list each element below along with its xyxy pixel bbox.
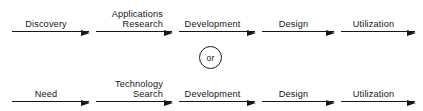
flow-step-label: Applications Research (112, 9, 163, 30)
flow-step-utilization: Utilization (341, 70, 415, 110)
arrowhead-icon (407, 100, 416, 106)
flow-step-label: Need (12, 89, 80, 100)
flow-step-label: Utilization (341, 19, 406, 30)
process-flow-diagram: Discovery Applications Research Developm… (0, 0, 423, 111)
flow-step-need: Need (12, 70, 89, 110)
or-connector: or (199, 46, 222, 69)
flow-step-development: Development (179, 70, 255, 110)
flow-step-label: Development (179, 19, 246, 30)
arrow-shaft (262, 101, 334, 102)
arrowhead-icon (81, 30, 90, 36)
arrow-shaft (12, 101, 89, 102)
arrowhead-icon (326, 100, 335, 106)
arrow-shaft (341, 31, 415, 32)
arrowhead-icon (326, 30, 335, 36)
flow-step-design: Design (262, 0, 334, 40)
arrowhead-icon (407, 30, 416, 36)
flow-step-utilization: Utilization (341, 0, 415, 40)
or-connector-label: or (200, 47, 221, 68)
arrowhead-icon (164, 100, 173, 106)
flow-step-label: Utilization (341, 89, 406, 100)
arrow-shaft (262, 31, 334, 32)
flow-step-label: Design (262, 19, 325, 30)
arrowhead-icon (164, 30, 173, 36)
flow-need-pull: Need Technology Search Development Desig… (0, 70, 423, 110)
arrow-shaft (179, 31, 255, 32)
flow-step-label: Development (179, 89, 246, 100)
arrow-shaft (96, 31, 172, 32)
arrow-shaft (179, 101, 255, 102)
arrow-shaft (341, 101, 415, 102)
flow-step-applications-research: Applications Research (96, 0, 172, 40)
flow-step-label: Design (262, 89, 325, 100)
flow-step-design: Design (262, 70, 334, 110)
arrowhead-icon (247, 100, 256, 106)
flow-step-technology-search: Technology Search (96, 70, 172, 110)
flow-step-label: Discovery (12, 19, 80, 30)
flow-step-label: Technology Search (115, 79, 163, 100)
arrowhead-icon (247, 30, 256, 36)
flow-step-development: Development (179, 0, 255, 40)
arrow-shaft (12, 31, 89, 32)
flow-technology-push: Discovery Applications Research Developm… (0, 0, 423, 40)
arrowhead-icon (81, 100, 90, 106)
arrow-shaft (96, 101, 172, 102)
flow-step-discovery: Discovery (12, 0, 89, 40)
